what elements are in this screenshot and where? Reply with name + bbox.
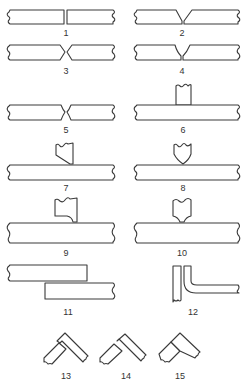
figure-3-double-v-butt: 3 (7, 45, 115, 76)
figure-5-double-v-close: 5 (7, 105, 115, 135)
plate-left (134, 45, 181, 60)
upper-plate (7, 265, 87, 281)
figure-label: 3 (63, 66, 68, 76)
figure-9-single-j-tee: 9 (7, 198, 115, 258)
stem (176, 84, 191, 105)
figure-13-corner-full-open: 13 (44, 333, 88, 381)
flanged-plate (184, 266, 239, 293)
figure-label: 2 (179, 28, 184, 38)
base-plate (134, 165, 240, 180)
figure-10-double-j-tee: 10 (134, 199, 240, 259)
figure-11-lap-joint: 11 (7, 265, 115, 317)
figure-label: 13 (61, 371, 71, 381)
plate-left (7, 45, 65, 60)
weld-joints-diagram: 1 2 3 4 5 6 7 8 (0, 0, 246, 384)
figure-label: 14 (121, 371, 131, 381)
figure-1-square-butt: 1 (7, 10, 115, 38)
base-plate (134, 105, 240, 120)
stem (173, 199, 191, 223)
plate-right (67, 45, 115, 60)
base-plate (7, 223, 115, 243)
left-plate (100, 344, 122, 364)
figure-label: 5 (63, 125, 68, 135)
plate-right (67, 105, 115, 120)
stem (56, 143, 73, 164)
lower-plate (45, 283, 115, 299)
plate-left (7, 10, 64, 24)
figure-6-square-tee: 6 (134, 84, 240, 135)
plate-left (7, 105, 65, 120)
figure-8-double-bevel-tee: 8 (134, 144, 240, 194)
plate-right (183, 45, 240, 60)
figure-label: 6 (180, 125, 185, 135)
stem (174, 144, 191, 165)
figure-4-single-u-butt: 4 (134, 45, 240, 76)
figure-12-flange-joint: 12 (173, 266, 239, 317)
base-plate (7, 165, 115, 180)
figure-15-corner-closed: 15 (159, 333, 200, 381)
figure-label: 1 (63, 28, 68, 38)
figure-2-single-v-butt: 2 (134, 10, 240, 38)
plate-left (134, 10, 182, 24)
figure-label: 4 (179, 66, 184, 76)
left-plate (44, 343, 66, 364)
right-plate (117, 334, 146, 361)
figure-14-corner-half-open: 14 (100, 334, 146, 381)
figure-7-single-bevel-tee: 7 (7, 143, 115, 193)
figure-label: 8 (180, 183, 185, 193)
figure-label: 11 (63, 307, 72, 317)
base-plate (134, 223, 240, 243)
vertical-plate (173, 266, 181, 302)
figure-label: 12 (188, 307, 198, 317)
stem (55, 198, 77, 222)
figure-label: 15 (175, 371, 185, 381)
figure-label: 9 (63, 248, 68, 258)
figure-label: 7 (63, 183, 68, 193)
plate-right (67, 10, 115, 24)
figure-label: 10 (177, 248, 187, 258)
plate-right (184, 10, 240, 24)
